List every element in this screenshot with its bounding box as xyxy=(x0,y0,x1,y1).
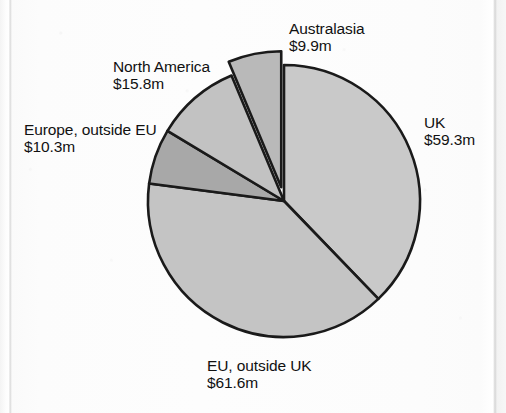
pie-label-eu-outside-uk-name: EU, outside UK xyxy=(207,357,312,374)
pie-label-eu-outside-uk-value: $61.6m xyxy=(207,374,312,391)
pie-label-uk-value: $59.3m xyxy=(424,131,475,148)
pie-label-australasia-name: Australasia xyxy=(289,20,365,37)
pie-chart: Australasia $9.9m UK $59.3m North Americ… xyxy=(0,0,506,413)
pie-label-australasia: Australasia $9.9m xyxy=(289,20,365,55)
pie-label-uk-name: UK xyxy=(424,114,475,131)
pie-label-europe-outside-eu-value: $10.3m xyxy=(24,138,157,155)
pie-label-australasia-value: $9.9m xyxy=(289,37,365,54)
pie-label-north-america: North America $15.8m xyxy=(113,58,210,93)
pie-label-eu-outside-uk: EU, outside UK $61.6m xyxy=(207,357,312,392)
pie-label-north-america-value: $15.8m xyxy=(113,75,210,92)
pie-chart-svg xyxy=(0,0,506,413)
pie-label-europe-outside-eu: Europe, outside EU $10.3m xyxy=(24,121,157,156)
pie-label-uk: UK $59.3m xyxy=(424,114,475,149)
pie-label-north-america-name: North America xyxy=(113,58,210,75)
pie-label-europe-outside-eu-name: Europe, outside EU xyxy=(24,121,157,138)
